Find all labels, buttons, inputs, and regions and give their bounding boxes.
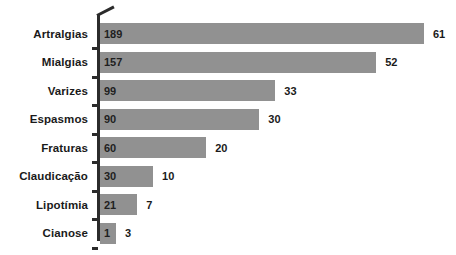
bar-count-label: 189 — [104, 28, 122, 40]
bar: 21 — [100, 194, 137, 215]
bar: 30 — [100, 166, 153, 187]
axis-tick — [92, 76, 98, 79]
bar-percent-label: 52 — [385, 56, 397, 68]
axis-tick — [92, 47, 98, 50]
bar: 90 — [100, 109, 259, 130]
bar-percent-label: 10 — [162, 170, 174, 182]
bar-row: Claudicação3010 — [0, 166, 456, 187]
axis-tick — [92, 161, 98, 164]
category-label: Cianose — [43, 227, 88, 239]
bar-count-label: 21 — [104, 199, 116, 211]
bar-row: Artralgias18961 — [0, 23, 456, 44]
axis-tick — [92, 218, 98, 221]
bar-percent-label: 33 — [284, 85, 296, 97]
bar-count-label: 99 — [104, 85, 116, 97]
bar-percent-label: 61 — [433, 28, 445, 40]
category-label: Claudicação — [19, 170, 88, 182]
bar: 60 — [100, 137, 206, 158]
bar-count-label: 30 — [104, 170, 116, 182]
category-label: Varizes — [48, 85, 88, 97]
bar: 157 — [100, 52, 376, 73]
bar-row: Lipotímia217 — [0, 194, 456, 215]
axis-tick — [92, 104, 98, 107]
axis-tick — [92, 247, 98, 250]
bar-count-label: 90 — [104, 113, 116, 125]
bar-count-label: 1 — [104, 227, 110, 239]
bar-percent-label: 20 — [215, 142, 227, 154]
category-label: Artralgias — [33, 28, 88, 40]
bar-percent-label: 7 — [146, 199, 152, 211]
category-label: Lipotímia — [36, 199, 88, 211]
bar-count-label: 157 — [104, 56, 122, 68]
bar-percent-label: 30 — [268, 113, 280, 125]
bar-row: Cianose13 — [0, 223, 456, 244]
category-label: Espasmos — [30, 113, 88, 125]
bar-percent-label: 3 — [125, 227, 131, 239]
category-label: Mialgias — [42, 56, 88, 68]
bar-row: Fraturas6020 — [0, 137, 456, 158]
bar: 99 — [100, 80, 275, 101]
bar-count-label: 60 — [104, 142, 116, 154]
bar-row: Varizes9933 — [0, 80, 456, 101]
axis-tick — [92, 190, 98, 193]
plot-area: Artralgias18961Mialgias15752Varizes9933E… — [0, 0, 456, 255]
bar-row: Espasmos9030 — [0, 109, 456, 130]
axis-tick — [92, 133, 98, 136]
bar-chart-figure: Artralgias18961Mialgias15752Varizes9933E… — [0, 0, 456, 255]
bar: 189 — [100, 23, 424, 44]
category-label: Fraturas — [41, 142, 88, 154]
bar: 1 — [100, 223, 116, 244]
bar-row: Mialgias15752 — [0, 52, 456, 73]
